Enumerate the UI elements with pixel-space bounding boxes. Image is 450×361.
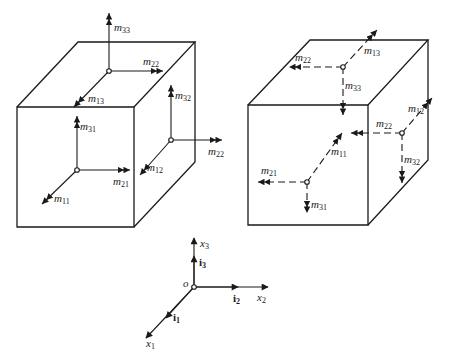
label-m12-left: m12	[147, 162, 163, 175]
label-i2: i2	[233, 293, 240, 306]
label-m22-left-top: m22	[143, 56, 159, 69]
point-left-front	[75, 168, 80, 173]
label-m12-right: m12	[408, 103, 424, 116]
label-m32-left: m32	[175, 90, 191, 103]
right-top-moments	[289, 30, 377, 115]
point-left-right	[169, 138, 174, 143]
label-m21-right: m21	[261, 165, 277, 178]
diagram-canvas	[0, 0, 450, 361]
point-right-front	[305, 180, 310, 185]
label-x3: x3	[200, 238, 209, 251]
left-cube-front-face	[17, 107, 134, 227]
label-m21-left: m21	[113, 176, 129, 189]
right-cube-top-face	[248, 40, 428, 105]
point-right-right	[400, 131, 405, 136]
label-m33-right: m33	[345, 80, 361, 93]
origin-point	[192, 285, 197, 290]
label-m32-right: m32	[404, 154, 420, 167]
label-m31-left: m31	[80, 121, 96, 134]
label-m31-right: m31	[311, 199, 327, 212]
label-m13-right: m13	[364, 45, 380, 58]
label-m33-left: m33	[114, 22, 130, 35]
left-cube	[17, 42, 195, 227]
couple-stress-diagram: m33 m22 m13 m31 m21 m11 m32 m22 m12 m22 …	[0, 0, 450, 361]
label-x2: x2	[257, 292, 266, 305]
label-origin: o	[183, 278, 189, 289]
label-m11-right: m11	[331, 146, 347, 159]
label-i1: i1	[173, 312, 180, 325]
label-i3: i3	[199, 257, 206, 270]
label-m22-right-right: m22	[376, 118, 392, 131]
label-m11-left: m11	[54, 193, 70, 206]
label-x1: x1	[146, 338, 155, 351]
left-cube-right-face	[134, 42, 195, 227]
point-right-top	[341, 65, 346, 70]
point-left-top	[107, 69, 112, 74]
label-m13-left: m13	[88, 93, 104, 106]
coordinate-axes	[146, 238, 268, 338]
label-m22-left-right: m22	[208, 146, 224, 159]
label-m22-right-top: m22	[295, 52, 311, 65]
